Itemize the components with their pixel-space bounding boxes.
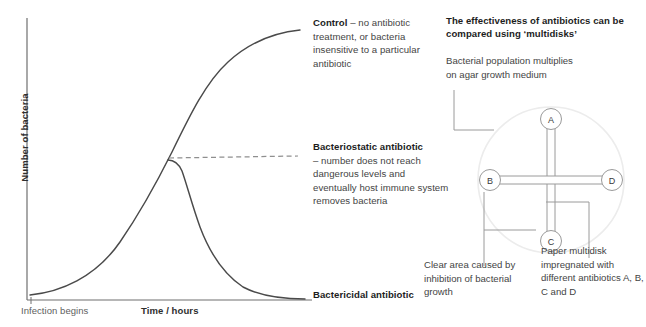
disk-b-label: B xyxy=(487,176,493,186)
callout-control-heading: Control xyxy=(313,17,347,28)
growth-curve-plot xyxy=(0,0,320,320)
origin-annotation: Infection begins xyxy=(21,305,88,316)
x-axis-label: Time / hours xyxy=(141,305,199,316)
bactericidal-curve xyxy=(168,160,305,299)
multidisk-arms xyxy=(493,122,609,238)
callout-bacteriostatic-heading: Bacteriostatic antibiotic xyxy=(313,140,449,154)
callout-bactericidal-heading: Bactericidal antibiotic xyxy=(313,289,414,300)
multidisk-agar-note: Bacterial population multiplies on agar … xyxy=(446,54,576,81)
figure-root: Number of bacteria Time / hours Infectio… xyxy=(0,0,646,327)
disk-a-label: A xyxy=(548,115,554,125)
callout-bacteriostatic-body: – number does not reach dangerous levels… xyxy=(313,155,448,207)
callout-control: Control – no antibiotic treatment, or ba… xyxy=(313,16,439,70)
multidisk-clear-area-note: Clear area caused by inhibition of bacte… xyxy=(424,258,534,299)
agar-leader-line xyxy=(454,90,494,130)
clear-area-leader-line xyxy=(484,192,536,266)
multidisk-title: The effectiveness of antibiotics can be … xyxy=(446,14,642,40)
bacteriostatic-curve xyxy=(169,156,298,158)
y-axis-label: Number of bacteria xyxy=(19,68,30,208)
callout-bacteriostatic: Bacteriostatic antibiotic– number does n… xyxy=(313,140,449,208)
control-curve xyxy=(30,30,300,295)
disk-d-label: D xyxy=(609,176,616,186)
arm-centre-join xyxy=(548,177,554,183)
multidisk-paper-note: Paper multidisk impregnated with differe… xyxy=(541,244,646,298)
